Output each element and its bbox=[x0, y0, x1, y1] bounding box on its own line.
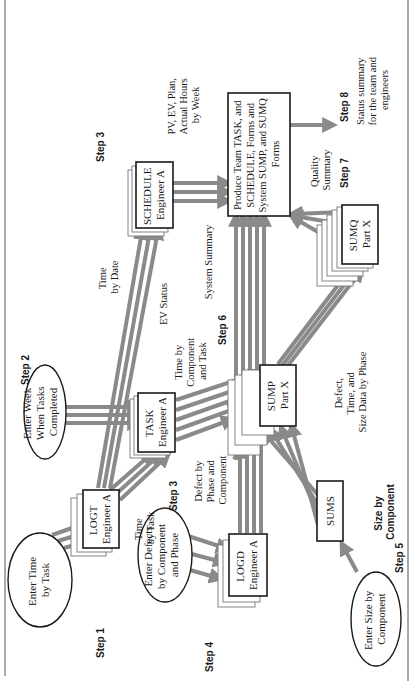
tsp-data-flow-diagram: Enter Time by Task Enter Week When Tasks… bbox=[0, 0, 417, 691]
svg-text:SCHEDULE Engineer A: SCHEDULE Engineer A bbox=[141, 165, 166, 225]
form-schedule: SCHEDULE Engineer A bbox=[128, 162, 173, 236]
label-ev-status: EV Status bbox=[158, 283, 169, 325]
step-3-label-task: Step 3 bbox=[168, 481, 179, 511]
label-defect-by-phase-and-component: Defect by Phase and Component bbox=[193, 455, 228, 504]
input-enter-time: Enter Time by Task bbox=[8, 533, 72, 627]
label-status-summary: Status summary for the team and engineer… bbox=[355, 54, 390, 125]
step-8-label: Step 8 bbox=[339, 92, 350, 122]
form-logt: LOGT Engineer A bbox=[71, 490, 119, 556]
step-3-label-schedule: Step 3 bbox=[95, 132, 106, 162]
svg-text:Enter Size by Component: Enter Size by Component bbox=[362, 588, 387, 650]
form-sums: SUMS bbox=[317, 481, 343, 541]
label-time-by-task: Time by Task bbox=[133, 511, 156, 544]
label-pv-ev-plan-actual-hours: PV, EV, Plan, Actual Hours by Week bbox=[166, 75, 201, 134]
step-2-label: Step 2 bbox=[20, 355, 31, 385]
svg-text:SUMP Part X: SUMP Part X bbox=[265, 379, 290, 411]
form-logd: LOGD Engineer A bbox=[218, 534, 267, 607]
svg-text:SUMQ Part X: SUMQ Part X bbox=[347, 217, 372, 252]
input-enter-size: Enter Size by Component bbox=[351, 572, 401, 666]
label-defect-time-size-data: Defect, Time, and Size Data by Phase bbox=[333, 351, 368, 432]
svg-text:SUMS: SUMS bbox=[324, 496, 336, 526]
svg-text:Enter Week When Tasks: Enter Week When Tasks Completed bbox=[21, 384, 59, 440]
label-size-by-component: Size by Component bbox=[373, 484, 396, 540]
step-4-label: Step 4 bbox=[204, 642, 215, 672]
label-time-by-component-and-task: Time by Component and Task bbox=[173, 335, 208, 387]
form-sumq: SUMQ Part X bbox=[317, 205, 378, 286]
step-6-label: Step 6 bbox=[217, 315, 228, 345]
label-system-summary: System Summary bbox=[203, 224, 214, 299]
step-7-label: Step 7 bbox=[339, 158, 350, 188]
produce-team-forms-box: Produce Team TASK, and SCHEDULE, Forms a… bbox=[228, 93, 290, 216]
form-task: TASK Engineer A bbox=[130, 393, 175, 458]
step-5-label: Step 5 bbox=[394, 543, 405, 573]
label-quality-summary: Quality Summary bbox=[309, 149, 332, 191]
label-time-by-date: Time by Date bbox=[97, 260, 120, 293]
step-1-label: Step 1 bbox=[95, 628, 106, 658]
